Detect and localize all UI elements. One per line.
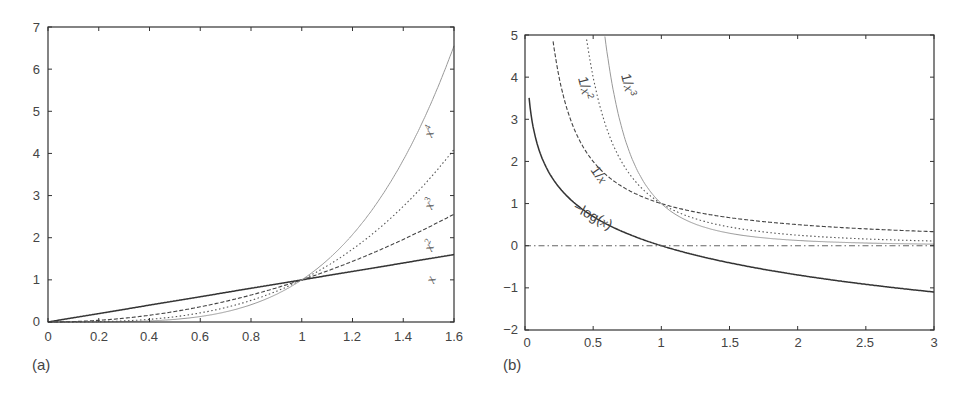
x-tick-label: 1	[657, 335, 664, 350]
curve-x-2	[48, 214, 454, 322]
panel-a-curves	[48, 46, 454, 322]
x-tick-label: 1.6	[445, 329, 463, 344]
x-tick-label: 1.4	[394, 329, 412, 344]
panel-a: 0 1 2 3 4 5 6 7 0 0.2 0.4 0.6 0.8 1 1.2 …	[32, 20, 463, 373]
label-inv-x2: 1/x2	[575, 75, 596, 101]
curve-x-3	[48, 149, 454, 322]
panel-b-x-axis: 0 0.5 1 1.5 2 2.5 3	[523, 335, 937, 350]
panel-a-ticks	[48, 27, 454, 322]
x-tick-label: 3	[930, 335, 937, 350]
figure-canvas: 0 1 2 3 4 5 6 7 0 0.2 0.4 0.6 0.8 1 1.2 …	[0, 0, 963, 394]
y-tick-label: 2	[33, 230, 40, 245]
y-tick-label: 6	[33, 62, 40, 77]
y-tick-label: 4	[511, 70, 518, 85]
label-x3: x3	[419, 195, 438, 212]
x-tick-label: 2.5	[856, 335, 874, 350]
curve--log-x-	[529, 98, 934, 292]
x-tick-label: 2	[794, 335, 801, 350]
x-tick-label: 0.8	[242, 329, 260, 344]
y-tick-label: 0	[33, 314, 40, 329]
label-inv-x3: 1/x3	[618, 72, 639, 98]
panel-b: −2 −1 0 1 2 3 4 5 0 0.5 1 1.5 2 2.5 3 1/…	[503, 28, 938, 373]
y-tick-label: 1	[511, 196, 518, 211]
x-tick-label: 0.2	[90, 329, 108, 344]
y-tick-label: −2	[503, 322, 518, 337]
y-tick-label: 3	[511, 112, 518, 127]
y-tick-label: 7	[33, 20, 40, 35]
x-tick-label: 1.2	[343, 329, 361, 344]
x-tick-label: 0	[44, 329, 51, 344]
x-tick-label: 0	[523, 335, 530, 350]
panel-b-curve-labels: 1/x2 1/x3 1/x −log(x)	[571, 72, 640, 233]
label-x4: x4	[419, 123, 438, 140]
label-neg-log: −log(x)	[571, 199, 616, 233]
y-tick-label: 0	[511, 238, 518, 253]
label-x2: x2	[419, 237, 438, 254]
panel-a-curve-labels: x4 x3 x2 x	[419, 123, 439, 286]
y-tick-label: 5	[511, 28, 518, 43]
y-tick-label: −1	[503, 280, 518, 295]
label-x: x	[422, 273, 439, 286]
curve-x-4	[48, 46, 454, 322]
x-tick-label: 1.5	[721, 335, 739, 350]
y-tick-label: 3	[33, 188, 40, 203]
curve-x	[48, 255, 454, 322]
panel-a-frame	[48, 27, 454, 322]
y-tick-label: 4	[33, 146, 40, 161]
panel-b-y-axis: −2 −1 0 1 2 3 4 5	[503, 28, 518, 337]
y-tick-label: 1	[33, 272, 40, 287]
panel-a-x-axis: 0 0.2 0.4 0.6 0.8 1 1.2 1.4 1.6	[44, 329, 463, 344]
y-tick-label: 2	[511, 154, 518, 169]
panel-a-y-axis: 0 1 2 3 4 5 6 7	[33, 20, 40, 329]
x-tick-label: 0.5	[584, 335, 602, 350]
panel-b-label: (b)	[503, 356, 521, 373]
panel-b-curves	[525, 37, 934, 293]
panel-a-label: (a)	[32, 356, 50, 373]
x-tick-label: 1	[298, 329, 305, 344]
y-tick-label: 5	[33, 104, 40, 119]
curve-1-x-2	[587, 40, 934, 242]
label-inv-x: 1/x	[588, 163, 612, 187]
x-tick-label: 0.6	[191, 329, 209, 344]
x-tick-label: 0.4	[140, 329, 158, 344]
curve-1-x-3	[605, 37, 934, 245]
